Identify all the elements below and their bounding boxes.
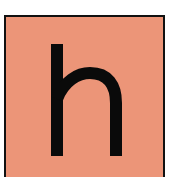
letter-card: h — [4, 15, 165, 177]
letter-h-glyph — [6, 17, 163, 177]
